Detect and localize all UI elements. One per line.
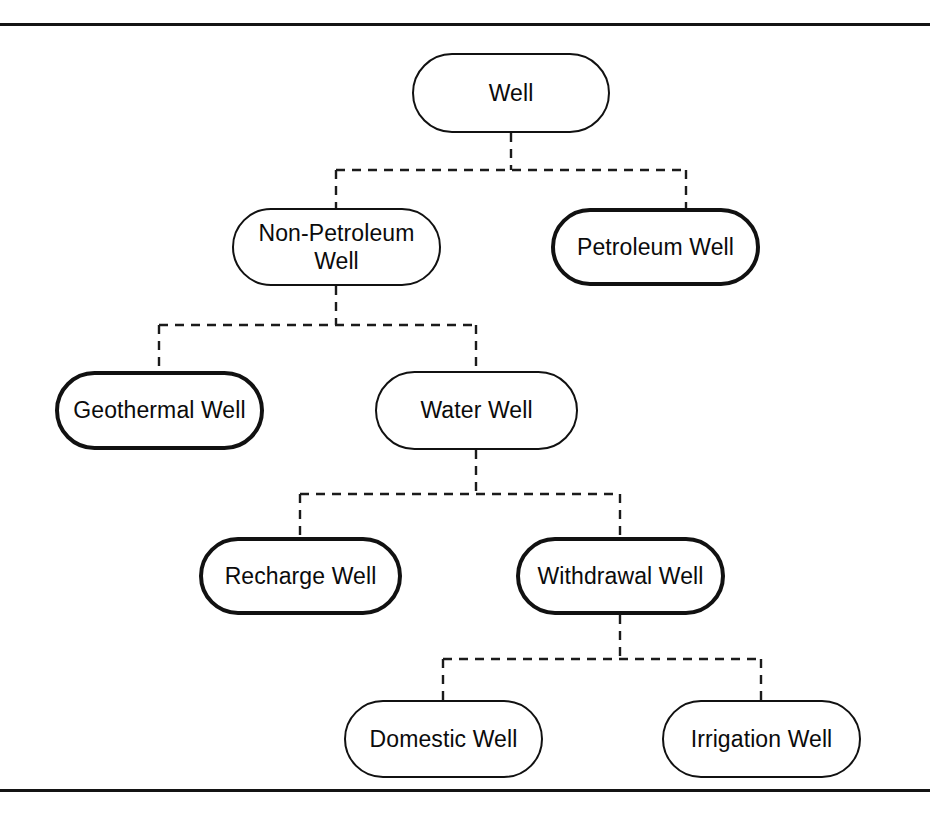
bottom-divider-rule — [0, 789, 930, 792]
connector-well-to-level2 — [336, 133, 686, 208]
node-geothermal-well[interactable]: Geothermal Well — [55, 371, 264, 450]
node-withdrawal-well[interactable]: Withdrawal Well — [516, 537, 725, 615]
node-domestic-well[interactable]: Domestic Well — [344, 700, 543, 778]
node-petroleum-well[interactable]: Petroleum Well — [551, 208, 760, 286]
node-water-well[interactable]: Water Well — [375, 371, 578, 450]
diagram-canvas: Well Non-Petroleum Well Petroleum Well G… — [0, 0, 930, 835]
node-recharge-well[interactable]: Recharge Well — [199, 537, 402, 615]
connector-withdrawal-to-level5 — [443, 615, 761, 700]
node-non-petroleum-well[interactable]: Non-Petroleum Well — [232, 208, 441, 286]
node-irrigation-well[interactable]: Irrigation Well — [662, 700, 861, 778]
node-well[interactable]: Well — [412, 53, 610, 133]
connector-nonpetroleum-to-level3 — [159, 286, 476, 371]
connector-waterwell-to-level4 — [300, 450, 620, 537]
